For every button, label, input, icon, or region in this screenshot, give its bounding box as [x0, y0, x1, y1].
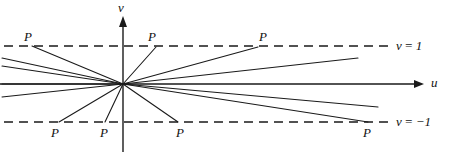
p-label-top-right: P [259, 30, 267, 43]
p-label-bottom-far-right: P [363, 126, 371, 139]
p-label-bottom-left: P [51, 126, 59, 139]
p-label-top-mid: P [148, 30, 156, 43]
v-axis-arrow-icon [119, 16, 127, 27]
ray-upper-left-steep [32, 46, 123, 84]
figure-canvas [0, 0, 450, 158]
u-axis-arrow-icon [414, 80, 424, 88]
p-label-bottom-right: P [176, 126, 184, 139]
p-label-top-left: P [24, 30, 32, 43]
axes-group [0, 16, 424, 152]
p-label-bottom-mid: P [100, 126, 108, 139]
v-equals-minus-one-label: v = −1 [396, 115, 431, 128]
uv-plane-figure: u v v = 1 v = −1 P P P P P P P [0, 0, 450, 158]
v-equals-one-label: v = 1 [396, 39, 422, 52]
v-axis-label: v [118, 1, 124, 14]
ray-down-right-steep [123, 84, 178, 122]
ray-up-right-shallow [123, 58, 358, 84]
u-axis-label: u [431, 76, 438, 89]
ray-up-right-steep [123, 47, 156, 84]
ray-upper-left-shallow-a [2, 58, 123, 84]
ray-upper-left-shallow-b [2, 66, 123, 84]
ray-up-right-medium [123, 47, 258, 84]
